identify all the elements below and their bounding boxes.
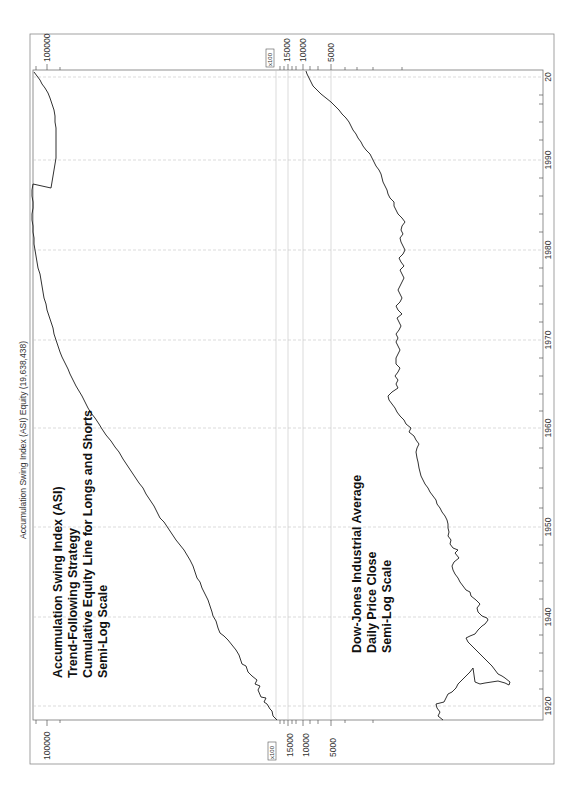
- year-label: 1920: [543, 696, 553, 715]
- annotation-line: Semi-Log Scale: [96, 585, 110, 678]
- right-axis-ticks: [539, 95, 543, 689]
- year-label: 1940: [543, 607, 553, 626]
- top-value-labels: 100000 x100 15000 10000 5000: [42, 33, 336, 67]
- annotation-line: Trend-Following Strategy: [66, 528, 80, 678]
- multiplier-label: x100: [267, 52, 273, 66]
- bottom-value-labels: 100000 x100 15000 10000 5000: [42, 731, 338, 760]
- annotation-line: Dow-Jones Industrial Average: [350, 475, 364, 653]
- annotation-line: Cumulative Equity Line for Longs and Sho…: [81, 410, 95, 678]
- price-tick-label: 5000: [326, 43, 336, 62]
- price-tick-label: 15000: [285, 733, 295, 757]
- multiplier-label: x100: [269, 745, 275, 759]
- year-axis-labels: 1920 1940 1950 1960 1970 1980 1990 20: [543, 72, 553, 715]
- djia-line: [306, 71, 510, 720]
- price-tick-label: 10000: [301, 733, 311, 757]
- chart-canvas: Accumulation Swing Index (ASI) Equity (1…: [0, 0, 585, 792]
- annotation-line: Daily Price Close: [365, 552, 379, 653]
- annotation-line: Accumulation Swing Index (ASI): [51, 486, 65, 678]
- year-label: 1980: [543, 240, 553, 259]
- year-label: 1950: [543, 517, 553, 536]
- annotation-line: Semi-Log Scale: [380, 560, 394, 653]
- chart-header: Accumulation Swing Index (ASI) Equity (1…: [18, 341, 28, 539]
- bottom-axis-ticks: [36, 720, 373, 726]
- year-label: 1970: [543, 330, 553, 349]
- price-gridlines: [276, 70, 331, 720]
- equity-tick-label: 100000: [42, 731, 52, 760]
- price-tick-label: 15000: [282, 38, 292, 62]
- equity-annotation: Accumulation Swing Index (ASI) Trend-Fol…: [51, 410, 110, 678]
- djia-annotation: Dow-Jones Industrial Average Daily Price…: [350, 475, 394, 653]
- equity-tick-label: 100000: [42, 33, 52, 62]
- price-tick-label: 10000: [298, 38, 308, 62]
- top-axis-ticks: [36, 64, 402, 70]
- price-tick-label: 5000: [328, 738, 338, 757]
- year-label: 1960: [543, 418, 553, 437]
- year-label: 20: [543, 72, 553, 82]
- year-label: 1990: [543, 150, 553, 169]
